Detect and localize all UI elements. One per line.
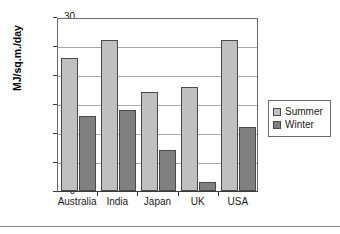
bar-india-summer <box>101 40 118 191</box>
bar-india-winter <box>119 110 136 191</box>
bar-australia-winter <box>79 116 96 191</box>
bar-usa-winter <box>239 127 256 191</box>
bar-uk-winter <box>199 182 216 191</box>
legend-label-summer: Summer <box>285 106 323 117</box>
chart-figure: MJ/sq.m./day 051015202530 AustraliaIndia… <box>0 0 340 234</box>
y-axis-title: MJ/sq.m./day <box>11 0 23 118</box>
x-axis-category-label-usa: USA <box>218 196 258 207</box>
x-axis-category-label-india: India <box>97 196 137 207</box>
bar-australia-summer <box>61 58 78 191</box>
bar-uk-summer <box>181 87 198 191</box>
x-axis-category-label-japan: Japan <box>137 196 177 207</box>
footer-divider <box>0 226 340 227</box>
bar-japan-summer <box>141 92 158 191</box>
plot-area <box>57 18 258 192</box>
bar-japan-winter <box>159 150 176 191</box>
legend-item-summer: Summer <box>273 106 326 117</box>
x-axis-category-label-australia: Australia <box>57 196 97 207</box>
chart-legend: Summer Winter <box>268 100 331 137</box>
legend-label-winter: Winter <box>285 119 314 130</box>
bar-usa-summer <box>221 40 238 191</box>
legend-swatch-winter-icon <box>273 121 281 129</box>
legend-item-winter: Winter <box>273 119 326 130</box>
legend-swatch-summer-icon <box>273 108 281 116</box>
x-axis-category-label-uk: UK <box>178 196 218 207</box>
